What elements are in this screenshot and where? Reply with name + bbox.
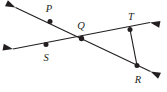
point-s [44,42,49,47]
point-t [128,27,133,32]
geometry-canvas: P Q S T R [0,0,167,92]
point-p [48,19,53,24]
point-r [135,63,140,68]
point-label-q: Q [77,20,85,31]
point-label-p: P [45,3,53,14]
diagram-background [0,0,167,92]
point-q [79,36,84,41]
point-label-s: S [43,52,49,63]
geometry-diagram: P Q S T R [0,0,167,92]
point-label-r: R [134,74,142,85]
